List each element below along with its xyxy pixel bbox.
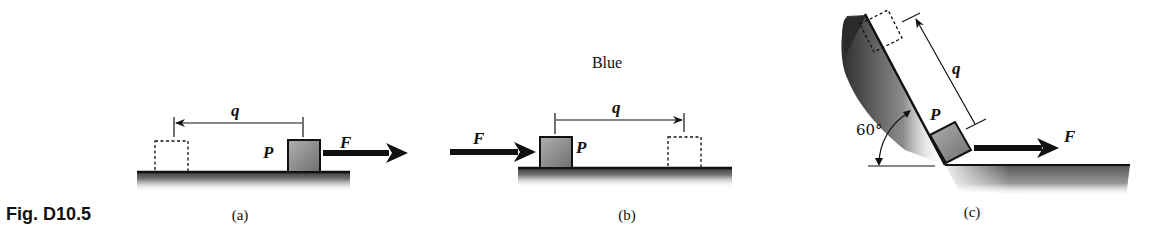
panel-a: q P F (a) [137,101,408,224]
panel-c: 60° q P F (c) [841,10,1130,221]
force-arrow [323,143,408,163]
displacement-label: q [231,101,240,120]
ground-surface [137,172,350,192]
figure-label: Fig. D10.5 [6,204,91,224]
ground-surface [518,168,732,188]
force-label: F [472,129,485,148]
displacement-dimension [174,117,303,137]
point-label: P [929,105,941,124]
force-label: F [339,133,352,152]
initial-position-block [155,141,188,172]
final-position-block [668,137,701,168]
inclined-wall [841,14,945,165]
angle-label: 60° [856,121,883,139]
force-arrow [974,138,1059,158]
point-label: P [575,138,587,157]
displacement-label: q [952,59,961,78]
force-label: F [1063,127,1076,146]
block-p [288,140,320,172]
panel-caption: (a) [232,207,249,224]
ground-surface [945,165,1130,197]
panel-b: Blue q P F (b) [450,54,732,224]
displacement-label: q [612,98,621,117]
point-label: P [262,143,274,162]
block-p [540,137,572,168]
figure-title: Blue [592,54,622,71]
panel-caption: (b) [618,207,636,224]
panel-caption: (c) [964,204,981,221]
figure-canvas: q P F (a) Fig. D10.5 Blue q P F (b) [0,0,1163,238]
force-arrow [450,142,536,162]
